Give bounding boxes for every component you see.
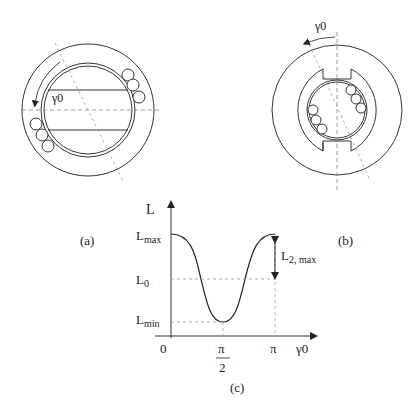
panel-c-chart: L Lmax L0 Lmin L2, max 0 π 2 π γ0 (c) <box>136 202 316 395</box>
y-axis-label: L <box>146 202 155 217</box>
x-tick-pi-half-num: π <box>218 341 225 356</box>
panel-a-label: (a) <box>80 233 94 248</box>
y-tick-l0: L0 <box>136 272 149 289</box>
y-tick-lmax: Lmax <box>136 228 161 245</box>
panel-b: γ0 (b) <box>272 19 402 248</box>
x-axis-label: γ0 <box>295 341 308 356</box>
angle-label-a: γ0 <box>51 91 63 105</box>
x-tick-zero: 0 <box>160 341 167 356</box>
angle-label-b: γ0 <box>314 19 326 33</box>
panel-c-label: (c) <box>230 380 244 395</box>
x-tick-pi-half-den: 2 <box>219 360 226 375</box>
panel-a: γ0 (a) <box>22 43 162 248</box>
y-tick-lmin: Lmin <box>136 312 160 329</box>
panel-b-label: (b) <box>338 233 353 248</box>
x-tick-pi: π <box>270 341 277 356</box>
figure-canvas: γ0 (a) γ0 (b) L Lmax L0 Lmin L2, <box>0 0 420 413</box>
annotation-l2max: L2, max <box>281 248 316 265</box>
